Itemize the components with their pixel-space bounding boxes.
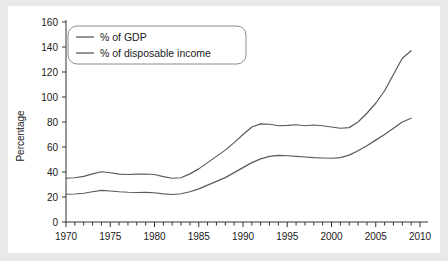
y-tick-label: 160 — [41, 17, 58, 28]
y-tick-label: 0 — [52, 217, 58, 228]
x-tick-label: 2000 — [320, 231, 343, 242]
y-tick-label: 40 — [47, 167, 59, 178]
data-series-group — [66, 51, 411, 195]
series-line-1 — [66, 118, 411, 194]
x-tick-label: 2005 — [365, 231, 388, 242]
x-tick-label: 1990 — [232, 231, 255, 242]
chart-figure: Percentage 020406080100120140160 1970197… — [8, 6, 440, 253]
y-tick-label: 100 — [41, 92, 58, 103]
line-chart: Percentage 020406080100120140160 1970197… — [8, 6, 440, 253]
y-tick-label: 20 — [47, 192, 59, 203]
x-axis-ticks — [66, 222, 420, 227]
y-tick-label: 140 — [41, 42, 58, 53]
y-axis-ticks — [62, 22, 66, 222]
y-tick-label: 60 — [47, 142, 59, 153]
x-tick-label: 1985 — [188, 231, 211, 242]
y-axis-title: Percentage — [15, 110, 26, 162]
y-tick-label: 80 — [47, 117, 59, 128]
x-tick-label: 1980 — [143, 231, 166, 242]
series-line-0 — [66, 51, 411, 179]
y-axis-tick-labels: 020406080100120140160 — [41, 17, 58, 228]
x-tick-label: 2010 — [409, 231, 432, 242]
chart-legend: % of GDP % of disposable income — [68, 26, 246, 64]
x-axis-tick-labels: 197019751980198519901995200020052010 — [55, 231, 432, 242]
legend-label-disposable-income: % of disposable income — [100, 47, 211, 59]
y-tick-label: 120 — [41, 67, 58, 78]
x-tick-label: 1995 — [276, 231, 299, 242]
legend-label-gdp: % of GDP — [100, 31, 147, 43]
x-tick-label: 1970 — [55, 231, 78, 242]
x-tick-label: 1975 — [99, 231, 122, 242]
